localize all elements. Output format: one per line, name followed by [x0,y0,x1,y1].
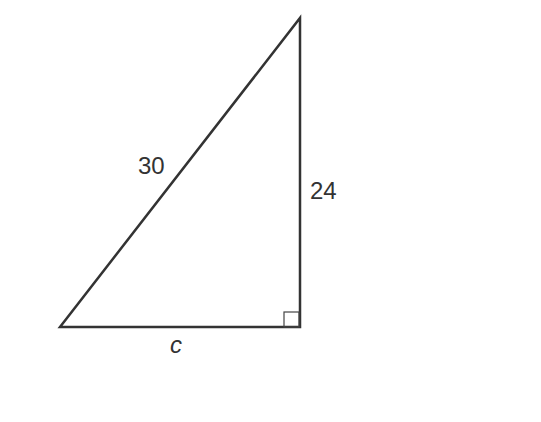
triangle-diagram: 30 24 c [0,0,541,422]
hypotenuse-label: 30 [138,152,165,179]
vertical-leg-label: 24 [310,177,337,204]
right-triangle [60,18,300,327]
horizontal-leg-label: c [170,331,182,358]
right-angle-marker [284,312,299,327]
